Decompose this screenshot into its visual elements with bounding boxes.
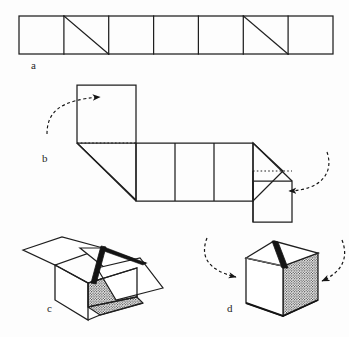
diagram-canvas	[0, 0, 349, 337]
left-fold-arrow	[47, 97, 100, 134]
right-close-arrow	[322, 240, 345, 281]
folding-diagram: a b c d	[0, 0, 349, 337]
b-left-diagonal-edge	[77, 143, 136, 201]
panel-label-a: a	[31, 60, 36, 71]
panel-d-closed-cube	[204, 238, 344, 316]
b-right-slant-face	[253, 143, 283, 201]
panel-label-b: b	[42, 153, 48, 164]
right-fold-arrow	[289, 152, 329, 191]
panel-a-strip	[19, 16, 333, 54]
b-left-upper-face	[77, 85, 136, 143]
panel-label-d: d	[227, 303, 233, 314]
panel-label-c: c	[47, 303, 52, 314]
c-box-front-face	[55, 265, 88, 320]
b-right-lower-face	[253, 181, 292, 222]
diagonal-crease-cell-2	[64, 16, 109, 54]
panel-c-open-box	[23, 237, 163, 320]
b-right-diagonal-edge	[253, 143, 292, 181]
strip-outline	[19, 16, 333, 54]
panel-b-zfold	[47, 85, 329, 222]
d-cube-front-face	[246, 258, 283, 316]
b-middle-band-outline	[136, 143, 253, 201]
diagonal-crease-cell-6	[243, 16, 288, 54]
left-close-arrow	[204, 238, 236, 277]
